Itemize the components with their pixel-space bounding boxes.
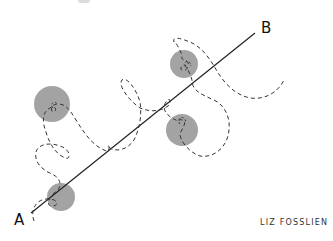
obstacles (34, 50, 198, 211)
obstacle-circle (170, 50, 198, 78)
label-end-b: B (261, 21, 271, 36)
label-start-a: A (14, 213, 24, 228)
artist-signature: LIZ FOSSLIEN (260, 218, 328, 227)
diagram-canvas (0, 0, 333, 241)
straight-line-a-to-b (31, 33, 255, 213)
